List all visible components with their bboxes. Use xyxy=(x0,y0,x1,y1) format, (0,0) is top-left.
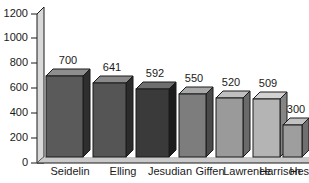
bar-value-label: 300 xyxy=(287,103,305,115)
x-category-label: Seidelin xyxy=(50,165,89,177)
bar-side-face xyxy=(206,87,213,157)
bar-front-face xyxy=(253,99,280,157)
y-tick-label: 200 xyxy=(10,131,28,143)
bar-front-face xyxy=(93,83,126,157)
y-tick-label: 400 xyxy=(10,106,28,118)
bar-side-face xyxy=(126,76,133,157)
bar-value-label: 509 xyxy=(259,77,277,89)
bar-chart: 1200 1000 800 600 400 200 0 xyxy=(0,0,309,183)
y-tick-label: 0 xyxy=(22,156,28,168)
x-axis-category-labels: Seidelin Elling Jesudian Giffen Lawrence… xyxy=(50,165,309,177)
bar-lawrence[interactable]: 520 xyxy=(216,76,250,157)
bar-side-face xyxy=(169,82,176,157)
x-category-label: Giffen xyxy=(195,165,224,177)
floor-surface xyxy=(37,157,309,163)
bar-value-label: 700 xyxy=(59,54,77,66)
bar-value-label: 592 xyxy=(146,67,164,79)
chart-floor xyxy=(37,157,309,163)
y-axis-3d-wall xyxy=(37,7,44,163)
chart-plot-area: 1200 1000 800 600 400 200 0 xyxy=(0,0,309,183)
bar-side-face xyxy=(302,118,309,157)
bar-front-face xyxy=(216,98,243,157)
y-axis-tick-labels: 1200 1000 800 600 400 200 0 xyxy=(4,7,28,168)
bar-jesudian[interactable]: 592 xyxy=(136,67,176,157)
axis-wall-face xyxy=(37,7,44,163)
y-tick-label: 800 xyxy=(10,56,28,68)
y-tick-label: 1000 xyxy=(4,31,28,43)
bar-side-face xyxy=(243,91,250,157)
bar-giffen[interactable]: 550 xyxy=(179,72,213,157)
bar-value-label: 550 xyxy=(185,72,203,84)
x-category-label: Hess xyxy=(289,165,309,177)
y-tick-label: 600 xyxy=(10,81,28,93)
bar-front-face xyxy=(136,89,169,157)
bar-hess[interactable]: 300 xyxy=(283,103,309,157)
bar-elling[interactable]: 641 xyxy=(93,61,133,157)
bar-front-face xyxy=(179,94,206,157)
bar-front-face xyxy=(283,125,302,157)
x-category-label: Elling xyxy=(110,165,137,177)
bar-value-label: 641 xyxy=(103,61,121,73)
bar-front-face xyxy=(46,76,83,157)
bar-harrison[interactable]: 509 xyxy=(253,77,287,157)
y-tick-label: 1200 xyxy=(4,7,28,19)
bar-seidelin[interactable]: 700 xyxy=(46,54,90,157)
bar-value-label: 520 xyxy=(222,76,240,88)
x-category-label: Jesudian xyxy=(148,165,192,177)
bar-side-face xyxy=(83,69,90,157)
y-axis-ticks xyxy=(31,14,37,163)
